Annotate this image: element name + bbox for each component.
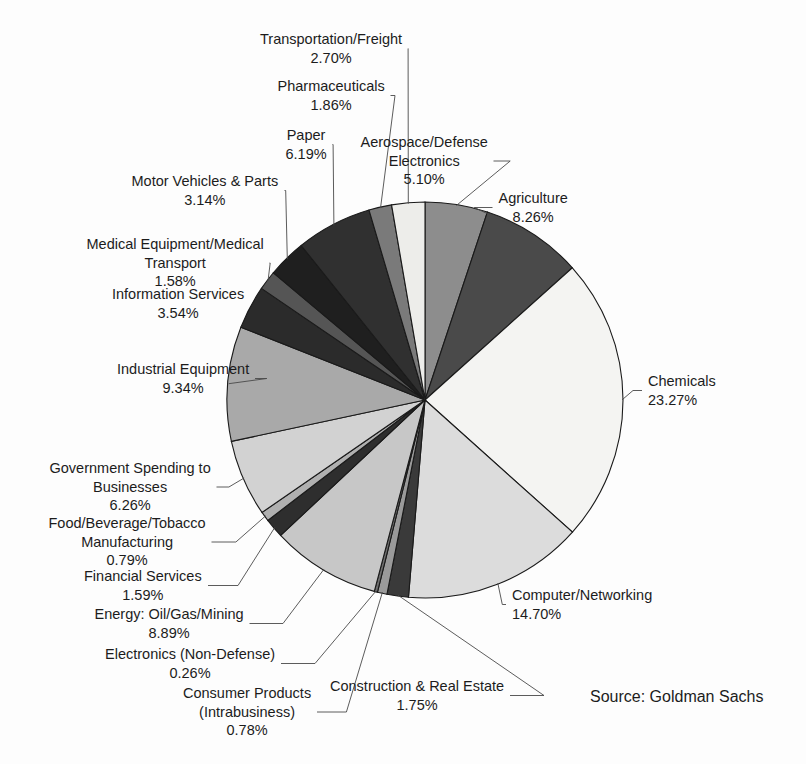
pie-slice-percent: 0.79% [49,551,206,570]
pie-slice-label-text: Transportation/Freight [260,30,402,49]
pie-slice-label-text: Motor Vehicles & Parts [132,172,279,191]
leader-line [208,527,275,585]
pie-slice-label: Consumer Products(Intrabusiness)0.78% [183,684,311,740]
pie-slice-percent: 6.19% [286,145,327,164]
pie-slice-percent: 3.54% [112,304,244,323]
pie-slice-label-text: Manufacturing [49,533,206,552]
pie-slice-label: Agriculture8.26% [499,189,568,226]
pie-slice-label-text: Pharmaceuticals [278,77,385,96]
pie-slice-percent: 9.34% [117,379,249,398]
pie-slice-label: Aerospace/DefenseElectronics5.10% [361,133,488,189]
pie-slice-label-text: Transport [87,254,264,273]
source-note: Source: Goldman Sachs [590,688,763,706]
pie-slice-label: Medical Equipment/MedicalTransport1.58% [87,235,264,291]
pie-slice-label: Paper6.19% [286,126,327,163]
pie-slice-percent: 5.10% [361,170,488,189]
leader-line [250,569,325,623]
pie-slice-label: Electronics (Non-Defense)0.26% [105,645,275,682]
pie-slice-percent: 6.26% [50,496,211,515]
pie-slice-label: Pharmaceuticals1.86% [278,77,385,114]
leader-line [217,478,245,487]
pie-slice-percent: 3.14% [132,191,279,210]
pie-slice-percent: 23.27% [648,391,716,410]
pie-slice-label: Government Spending toBusinesses6.26% [50,459,211,515]
pie-slice-label-text: Medical Equipment/Medical [87,235,264,254]
pie-slice-label-text: Food/Beverage/Tobacco [49,514,206,533]
pie-slice-label: Food/Beverage/TobaccoManufacturing0.79% [49,514,206,570]
pie-slice-label-text: Paper [286,126,327,145]
pie-slice-label: Motor Vehicles & Parts3.14% [132,172,279,209]
pie-slice-label: Financial Services1.59% [84,567,202,604]
pie-slice-label: Chemicals23.27% [648,372,716,409]
pie-slice-label-text: Electronics [361,152,488,171]
pie-slice-label-text: Government Spending to [50,459,211,478]
leader-line [281,591,376,664]
pie-slice-percent: 0.26% [105,664,275,683]
pie-slice-label-text: Financial Services [84,567,202,586]
leader-line [498,583,506,604]
pie-slice-percent: 1.86% [278,96,385,115]
pie-slice-label-text: Consumer Products [183,684,311,703]
pie-slice-label-text: Construction & Real Estate [330,677,504,696]
pie-slice-label-text: Chemicals [648,372,716,391]
pie-slice-label-text: Industrial Equipment [117,360,249,379]
pie-slice-label-text: Electronics (Non-Defense) [105,645,275,664]
leader-line [285,191,288,260]
pie-slice-label-text: Computer/Networking [512,586,652,605]
pie-slice-label-text: Energy: Oil/Gas/Mining [95,605,244,624]
pie-slice-label-text: (Intrabusiness) [183,703,311,722]
pie-slice-percent: 1.58% [87,272,264,291]
pie-slice-label-text: Businesses [50,478,211,497]
leader-line [333,145,334,226]
pie-slice-label-text: Agriculture [499,189,568,208]
pie-slice-label: Computer/Networking14.70% [512,586,652,623]
pie-slices-group [227,202,623,598]
pie-slice-label: Industrial Equipment9.34% [117,360,249,397]
leader-line [622,391,642,400]
pie-slice-percent: 14.70% [512,605,652,624]
pie-slice-label-text: Aerospace/Defense [361,133,488,152]
pie-slice-label: Energy: Oil/Gas/Mining8.89% [95,605,244,642]
pie-slice-percent: 1.75% [330,696,504,715]
leader-line [212,516,266,542]
pie-slice-percent: 8.89% [95,624,244,643]
pie-slice-percent: 1.59% [84,586,202,605]
pie-slice-label: Transportation/Freight2.70% [260,30,402,67]
pie-slice-percent: 0.78% [183,721,311,740]
pie-slice-percent: 2.70% [260,49,402,68]
figure-caption [0,750,806,764]
pie-slice-label: Construction & Real Estate1.75% [330,677,504,714]
pie-chart-page: Aerospace/DefenseElectronics5.10%Agricul… [0,0,806,764]
pie-slice-percent: 8.26% [499,208,568,227]
